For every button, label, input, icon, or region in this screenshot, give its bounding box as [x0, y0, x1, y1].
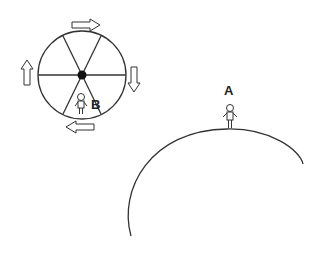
person-a-icon	[223, 105, 237, 129]
arrow-down-icon	[128, 67, 140, 92]
arrow-right-icon	[72, 19, 100, 31]
label-b: B	[91, 97, 100, 112]
planet-surface	[128, 129, 303, 236]
person-b-icon	[75, 94, 87, 115]
label-a: A	[224, 83, 233, 98]
arrow-up-icon	[21, 60, 33, 85]
diagram-canvas	[0, 0, 322, 254]
wheel-hub	[78, 71, 87, 80]
arrow-left-icon	[66, 121, 94, 133]
